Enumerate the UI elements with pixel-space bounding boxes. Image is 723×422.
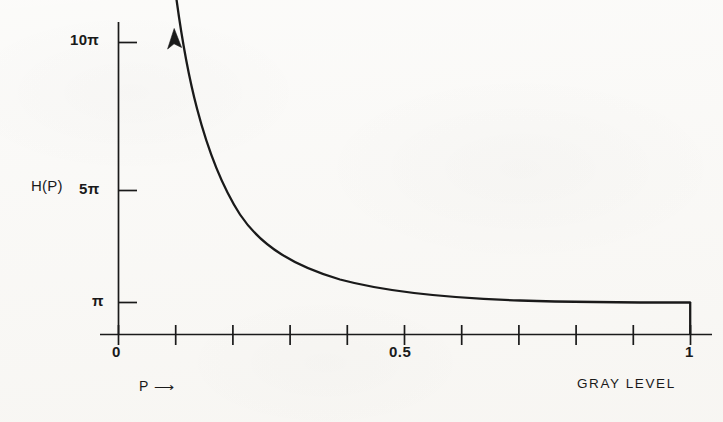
figure-canvas: H(P) 10π 5π π 0 0.5 1 P⟶ GRAY LEVEL: [0, 0, 723, 422]
y-tick-label-5pi: 5π: [79, 181, 99, 196]
x-axis-title-text: P: [139, 378, 149, 394]
x-tick-label-zero: 0: [112, 344, 120, 359]
x-axis-caption: GRAY LEVEL: [577, 377, 676, 391]
x-tick-label-one: 1: [685, 344, 693, 359]
right-arrow-icon: ⟶: [154, 380, 174, 394]
curve-arrowhead-icon: [168, 29, 182, 50]
curve-h-of-p: [177, 0, 691, 303]
y-tick-label-pi: π: [92, 293, 103, 308]
y-tick-label-10pi: 10π: [70, 32, 99, 47]
x-axis-title: P⟶: [139, 379, 174, 393]
y-axis-title: H(P): [31, 178, 63, 193]
chart-plot-area: [0, 0, 723, 422]
x-tick-label-half: 0.5: [389, 344, 411, 359]
